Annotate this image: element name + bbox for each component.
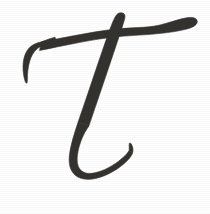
glyph-canvas: Handwritten cursive Greek lowercase lett… <box>0 0 210 214</box>
tau-glyph-image <box>0 0 210 214</box>
